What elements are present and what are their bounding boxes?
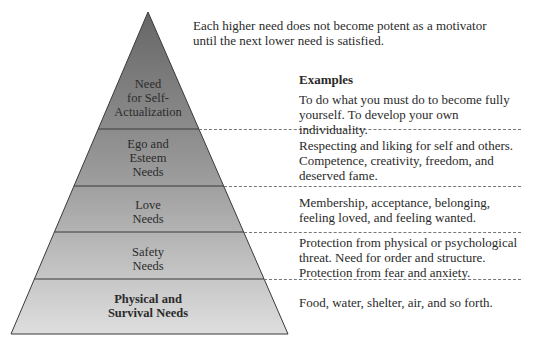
example-self-actualization: To do what you must do to become fully y… — [299, 92, 524, 137]
example-physical: Food, water, shelter, air, and so forth. — [299, 295, 524, 310]
dashed-separator-3 — [244, 232, 521, 233]
intro-line: Each higher need does not become potent … — [193, 18, 523, 33]
example-safety: Protection from physical or psychologica… — [299, 235, 524, 280]
dashed-separator-2 — [224, 186, 521, 187]
level-label-esteem: Ego and Esteem Needs — [98, 137, 198, 179]
intro-line: until the next lower need is satisfied. — [193, 33, 523, 48]
example-esteem: Respecting and liking for self and other… — [299, 138, 524, 183]
level-label-self-actualization: Need for Self- Actualization — [98, 77, 198, 119]
level-label-love: Love Needs — [98, 198, 198, 226]
examples-heading: Examples — [299, 72, 353, 88]
example-love: Membership, acceptance, belonging, feeli… — [299, 195, 524, 225]
level-label-safety: Safety Needs — [98, 245, 198, 273]
intro-text: Each higher need does not become potent … — [193, 18, 523, 48]
level-label-physical: Physical and Survival Needs — [88, 292, 208, 320]
